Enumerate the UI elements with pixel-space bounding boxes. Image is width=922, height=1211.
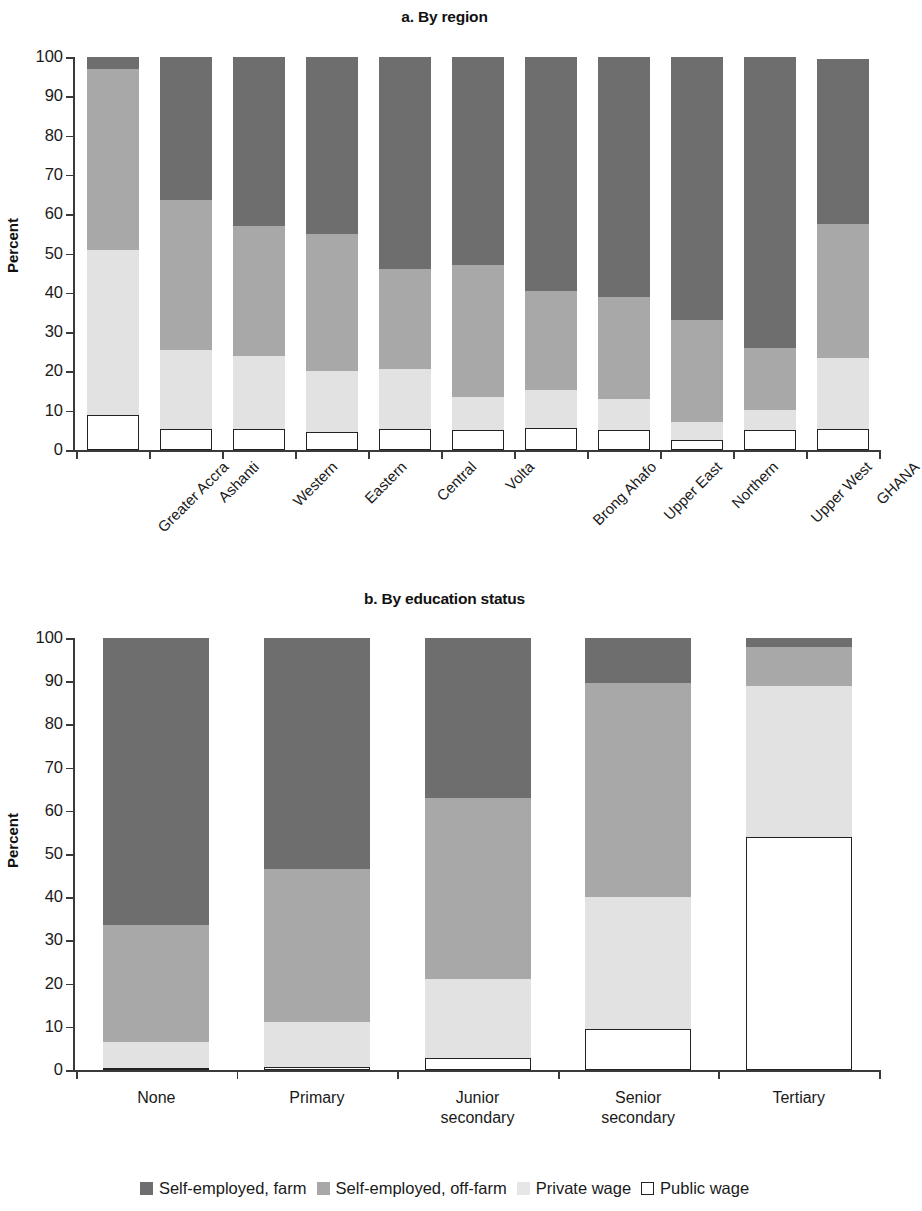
bar-junior-secondary[interactable] — [425, 638, 531, 1070]
bar-segment-farm — [598, 57, 650, 297]
x-tick-label: Brong Ahafo — [589, 458, 659, 528]
bar-ashanti[interactable] — [160, 57, 212, 450]
bar-segment-private — [425, 979, 531, 1058]
bar-segment-private — [87, 250, 139, 415]
chart-panel-by-region: a. By region Percent 0102030405060708090… — [0, 0, 889, 570]
bar-segment-public — [264, 1067, 370, 1070]
bar-segment-private — [233, 356, 285, 429]
bar-segment-public — [306, 432, 358, 450]
bar-primary[interactable] — [264, 638, 370, 1070]
legend-swatch-public-icon — [641, 1182, 654, 1195]
bar-segment-farm — [744, 57, 796, 348]
bar-segment-public — [87, 415, 139, 450]
bar-segment-offfarm — [264, 869, 370, 1022]
bar-upper-west[interactable] — [744, 57, 796, 450]
y-tick-label: 50 — [3, 845, 63, 862]
bar-greater-accra[interactable] — [87, 57, 139, 450]
x-tick-label: Volta — [501, 458, 537, 494]
bar-segment-farm — [671, 57, 723, 320]
bar-volta[interactable] — [452, 57, 504, 450]
bar-upper-east[interactable] — [598, 57, 650, 450]
legend-swatch-offfarm-icon — [317, 1182, 330, 1195]
bar-segment-public — [233, 429, 285, 450]
x-tickmark — [806, 450, 808, 459]
y-tick-label: 30 — [3, 931, 63, 948]
bar-segment-farm — [585, 638, 691, 683]
bar-segment-farm — [817, 59, 869, 224]
x-tickmark — [76, 450, 78, 459]
bar-northern[interactable] — [671, 57, 723, 450]
bar-none[interactable] — [103, 638, 209, 1070]
bar-brong-ahafo[interactable] — [525, 57, 577, 450]
bar-segment-offfarm — [525, 291, 577, 390]
legend-label: Private wage — [536, 1179, 631, 1198]
bar-tertiary[interactable] — [746, 638, 852, 1070]
bar-segment-public — [103, 1068, 209, 1070]
bar-segment-offfarm — [817, 224, 869, 357]
bar-ghana[interactable] — [817, 57, 869, 450]
bar-segment-offfarm — [379, 269, 431, 369]
x-tickmark — [733, 450, 735, 459]
x-tick-label: Seniorsecondary — [558, 1088, 719, 1127]
y-tick-label: 70 — [3, 759, 63, 776]
chart-legend: Self-employed, farmSelf-employed, off-fa… — [0, 1176, 889, 1200]
bar-segment-farm — [160, 57, 212, 200]
chart-b-x-axis-line — [73, 1070, 879, 1072]
bar-segment-private — [103, 1042, 209, 1068]
bar-segment-offfarm — [746, 647, 852, 686]
legend-item-private[interactable]: Private wage — [517, 1179, 631, 1198]
bar-segment-private — [585, 897, 691, 1029]
bar-segment-public — [585, 1029, 691, 1070]
bar-segment-private — [671, 422, 723, 439]
x-tickmark — [718, 1070, 720, 1079]
x-tick-label: None — [76, 1088, 237, 1108]
legend-swatch-private-icon — [517, 1182, 530, 1195]
bar-segment-offfarm — [103, 925, 209, 1042]
bar-segment-farm — [379, 57, 431, 269]
y-tick-label: 100 — [3, 48, 63, 65]
y-tick-label: 60 — [3, 205, 63, 222]
bar-central[interactable] — [379, 57, 431, 450]
legend-label: Public wage — [660, 1179, 749, 1198]
x-tickmark — [368, 450, 370, 459]
x-tick-label: Upper East — [659, 458, 724, 523]
y-tick-label: 80 — [3, 127, 63, 144]
chart-panel-by-education: b. By education status Percent 010203040… — [0, 570, 889, 1170]
x-tick-label: Juniorsecondary — [397, 1088, 558, 1127]
chart-a-plot-area: Percent 0102030405060708090100 Greater A… — [0, 0, 889, 570]
bar-segment-private — [379, 369, 431, 429]
bar-segment-farm — [525, 57, 577, 291]
y-tick-label: 20 — [3, 362, 63, 379]
legend-label: Self-employed, off-farm — [336, 1179, 507, 1198]
bar-segment-farm — [103, 638, 209, 925]
x-tickmark — [149, 450, 151, 459]
bar-segment-public — [379, 429, 431, 450]
y-tick-label: 100 — [3, 629, 63, 646]
y-tick-label: 50 — [3, 245, 63, 262]
bar-segment-public — [160, 429, 212, 450]
bar-segment-offfarm — [452, 265, 504, 397]
bar-segment-private — [306, 371, 358, 431]
y-tick-label: 20 — [3, 975, 63, 992]
bar-segment-public — [817, 429, 869, 450]
y-tick-label: 30 — [3, 323, 63, 340]
bar-segment-private — [598, 399, 650, 430]
bar-senior-secondary[interactable] — [585, 638, 691, 1070]
bar-western[interactable] — [233, 57, 285, 450]
bar-segment-public — [744, 430, 796, 450]
legend-item-offfarm[interactable]: Self-employed, off-farm — [317, 1179, 507, 1198]
legend-item-farm[interactable]: Self-employed, farm — [140, 1179, 307, 1198]
x-tickmark — [222, 450, 224, 459]
bar-segment-public — [746, 837, 852, 1070]
y-tick-label: 10 — [3, 1018, 63, 1035]
chart-b-y-axis-line — [73, 638, 75, 1071]
legend-label: Self-employed, farm — [159, 1179, 307, 1198]
bar-segment-offfarm — [671, 320, 723, 422]
bar-eastern[interactable] — [306, 57, 358, 450]
legend-item-public[interactable]: Public wage — [641, 1179, 749, 1198]
bar-segment-public — [452, 430, 504, 450]
bar-segment-private — [746, 686, 852, 837]
bar-segment-offfarm — [233, 226, 285, 356]
bar-segment-private — [744, 410, 796, 431]
bar-segment-offfarm — [306, 234, 358, 372]
